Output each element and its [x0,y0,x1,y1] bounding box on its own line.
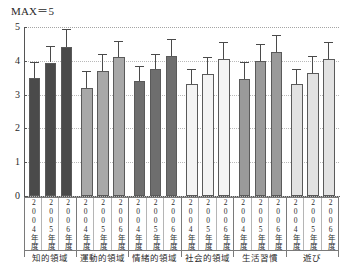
error-bar-cap [256,44,265,45]
bar-item[interactable] [218,27,230,196]
error-bar-cap [82,71,91,72]
x-axis-year-cells: 2004年度2005年度2006年度 [77,197,129,251]
bar-item[interactable] [307,27,319,196]
bar [307,73,319,196]
error-bar-line [207,57,208,74]
bar-item[interactable] [166,27,178,196]
x-axis-year-cell: 2006年度 [164,198,181,250]
x-axis-year-cell: 2005年度 [147,198,165,250]
error-bar-cap [135,66,144,67]
error-bar-line [260,44,261,61]
bar [81,88,93,196]
bar [113,57,125,196]
bar-item[interactable] [239,27,251,196]
x-axis-year-cell: 2004年度 [77,198,95,250]
error-bar-cap [114,41,123,42]
error-bar-cap [167,39,176,40]
chart-root: MAX＝5 543210 2004年度2005年度2006年度知的領域2004年… [0,0,346,280]
bar-item[interactable] [255,27,267,196]
error-bar-line [155,54,156,69]
bar [186,84,198,196]
bar-item[interactable] [202,27,214,196]
y-tick-label-5: 5 [0,22,20,32]
error-bar-line [171,39,172,56]
error-bar-line [276,35,277,52]
error-bar-line [312,56,313,73]
x-axis-year-cell: 2004年度 [287,198,305,250]
x-axis-year-label: 2004年度 [238,198,247,250]
x-axis-group-label: 生活習慣 [234,251,286,263]
x-axis-group-label: 運動的領域 [77,251,129,263]
bar-group [77,27,130,196]
error-bar-cap [62,29,71,30]
y-tick-mark-3 [24,95,27,96]
bar-item[interactable] [45,27,57,196]
x-axis-year-cell: 2006年度 [269,198,286,250]
x-axis-group-label: 社会的領域 [182,251,234,263]
x-axis-year-cell: 2004年度 [234,198,252,250]
error-bar-line [191,69,192,84]
bar-item[interactable] [97,27,109,196]
x-axis-group: 2004年度2005年度2006年度情緒的領域 [129,197,182,257]
bar-item[interactable] [186,27,198,196]
error-bar-cap [240,62,249,63]
error-bar-cap [187,69,196,70]
bar-item[interactable] [81,27,93,196]
error-bar-cap [30,62,39,63]
error-bar-line [102,54,103,71]
error-bar-line [139,66,140,81]
error-bar-line [50,46,51,63]
chart-title: MAX＝5 [11,2,54,18]
x-axis-year-cell: 2006年度 [322,198,339,250]
bar-item[interactable] [271,27,283,196]
error-bar-cap [203,57,212,58]
x-axis-year-label: 2004年度 [133,198,142,250]
error-bar-cap [219,42,228,43]
x-axis-label-table: 2004年度2005年度2006年度知的領域2004年度2005年度2006年度… [24,197,340,257]
bar-item[interactable] [323,27,335,196]
y-tick-label-4: 4 [0,56,20,66]
x-axis-year-label: 2006年度 [273,198,282,250]
y-tick-mark-5 [24,27,27,28]
x-axis-year-label: 2004年度 [81,198,90,250]
bar-group [287,27,340,196]
bar [291,84,303,196]
x-axis-year-label: 2005年度 [46,198,55,250]
bar-group [234,27,287,196]
x-axis-year-cells: 2004年度2005年度2006年度 [234,197,286,251]
bar [218,59,230,196]
bar [166,56,178,196]
bar [29,78,41,196]
bar-group [24,27,77,196]
x-axis-group: 2004年度2005年度2006年度遊び [287,197,340,257]
x-axis-year-cells: 2004年度2005年度2006年度 [129,197,181,251]
x-axis-group: 2004年度2005年度2006年度知的領域 [24,197,77,257]
bar [239,79,251,196]
bar [323,59,335,196]
bar [45,63,57,197]
bar-group [182,27,235,196]
bar-item[interactable] [134,27,146,196]
bar [134,81,146,196]
bar-item[interactable] [150,27,162,196]
x-axis-year-label: 2004年度 [291,198,300,250]
y-tick-label-2: 2 [0,123,20,133]
bar [255,61,267,196]
error-bar-cap [292,69,301,70]
error-bar-line [328,42,329,59]
x-axis-year-cell: 2006年度 [112,198,129,250]
error-bar-line [34,62,35,77]
bar [202,74,214,196]
x-axis-year-label: 2004年度 [186,198,195,250]
bar-item[interactable] [61,27,73,196]
error-bar-cap [98,54,107,55]
y-tick-mark-2 [24,128,27,129]
bar-item[interactable] [29,27,41,196]
bar [97,71,109,196]
y-tick-label-3: 3 [0,90,20,100]
bar-item[interactable] [113,27,125,196]
error-bar-line [244,62,245,79]
x-axis-year-label: 2006年度 [326,198,335,250]
bar-item[interactable] [291,27,303,196]
x-axis-year-cell: 2005年度 [42,198,59,250]
